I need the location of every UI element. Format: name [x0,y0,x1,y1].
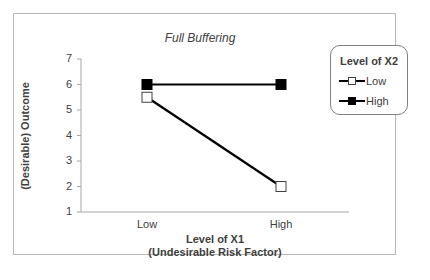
x-axis-label: Level of X1 (Undesirable Risk Factor) [148,233,281,259]
legend: Level of X2 Low High [330,45,408,115]
filled-square-marker-icon [276,80,286,90]
x-axis-label-line-1: Level of X1 [148,233,281,246]
x-axis-label-line-2: (Undesirable Risk Factor) [148,246,281,259]
legend-title: Level of X2 [331,55,407,67]
hollow-square-marker-icon [276,182,286,192]
filled-square-marker-icon [142,80,152,90]
legend-item-high: High [339,94,389,108]
hollow-square-marker-icon [142,92,152,102]
legend-label-high: High [366,95,389,107]
series-line-low [147,97,281,186]
hollow-square-marker-icon [339,74,365,88]
legend-label-low: Low [366,75,386,87]
legend-item-low: Low [339,74,386,88]
filled-square-marker-icon [339,94,365,108]
